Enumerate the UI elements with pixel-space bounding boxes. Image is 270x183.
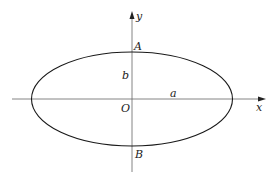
semi-major-label: a bbox=[170, 87, 177, 100]
vertex-b-label: B bbox=[134, 148, 143, 161]
x-axis-label: x bbox=[256, 101, 263, 114]
y-axis bbox=[130, 11, 135, 172]
semi-minor-label: b bbox=[122, 69, 129, 82]
vertex-a-label: A bbox=[133, 40, 142, 53]
x-axis bbox=[12, 97, 266, 102]
ellipse-diagram: y x A B b O a bbox=[0, 0, 270, 183]
y-axis-arrow-icon bbox=[130, 11, 135, 19]
origin-label: O bbox=[121, 102, 130, 115]
y-axis-label: y bbox=[135, 10, 143, 23]
